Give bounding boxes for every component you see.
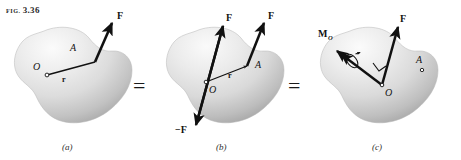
point-O-dot-b: [204, 80, 208, 84]
position-vector-r-label-b: r: [228, 71, 232, 80]
force-F-label-c: F: [400, 13, 406, 24]
point-A-label-b: A: [254, 59, 262, 70]
point-O-label-b: O: [209, 84, 216, 95]
point-A-label-c: A: [415, 54, 423, 65]
moment-MO-label-c: M: [318, 28, 328, 39]
force-minus-F-label-b: −F: [175, 124, 187, 135]
panel-c: F O A M O (c): [318, 13, 438, 152]
panel-caption-c: (c): [372, 142, 382, 152]
point-O-label-a: O: [33, 61, 40, 72]
point-O-dot-c: [380, 83, 384, 87]
panel-b: F −F O r A F (b): [166, 10, 284, 152]
equals-sign-1: =: [133, 73, 145, 98]
point-A-label-a: A: [69, 42, 77, 53]
panel-a: O r A F (a): [14, 10, 132, 152]
force-F-at-O-label-b: F: [226, 12, 232, 23]
force-F-label-a: F: [117, 10, 123, 21]
figure-root: FIG. 3.36: [0, 0, 461, 160]
rigid-body-blob-c: [320, 27, 438, 123]
equals-sign-2: =: [288, 73, 300, 98]
panel-caption-a: (a): [62, 142, 73, 152]
force-F-at-A-label-b: F: [268, 10, 274, 21]
moment-MO-subscript-c: O: [328, 34, 333, 41]
point-O-label-c: O: [385, 87, 392, 98]
panel-caption-b: (b): [216, 142, 227, 152]
point-O-dot-a: [45, 73, 49, 77]
point-A-dot-c: [420, 68, 423, 71]
figure-canvas: O r A F (a) = F −F O r A F (b) =: [0, 0, 461, 160]
position-vector-r-label-a: r: [62, 75, 66, 84]
